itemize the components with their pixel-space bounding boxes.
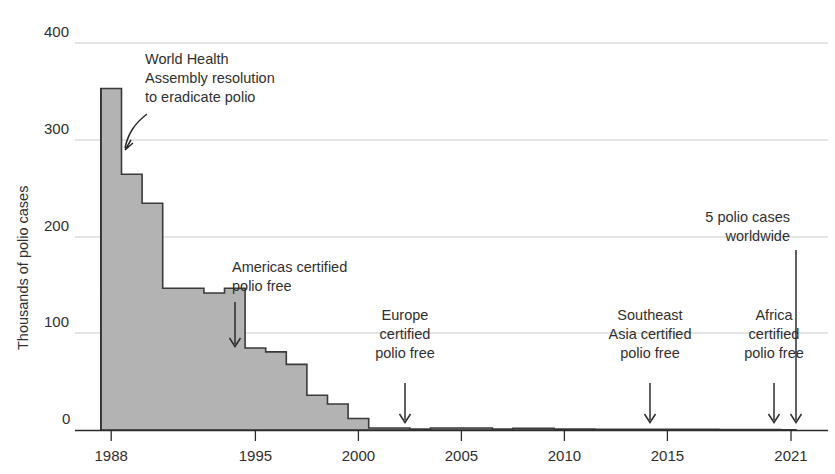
- annotation-five-cases: 5 polio cases worldwide: [672, 208, 790, 246]
- y-tick-label-300: 300: [44, 120, 69, 137]
- annotation-southeast-asia: Southeast Asia certified polio free: [583, 306, 717, 363]
- polio-cases-chart: 400 300 200 100 0 1988 1995 2000 2005 20…: [0, 0, 835, 474]
- annotation-europe: Europe certified polio free: [345, 306, 465, 363]
- annotation-africa: Africa certified polio free: [716, 306, 832, 363]
- y-tick-label-200: 200: [44, 217, 69, 234]
- x-tick-label-1995: 1995: [239, 447, 272, 464]
- y-tick-label-400: 400: [44, 23, 69, 40]
- y-axis-title: Thousands of polio cases: [15, 186, 31, 350]
- x-tick-label-2015: 2015: [651, 447, 684, 464]
- y-tick-label-0: 0: [62, 410, 70, 427]
- x-tick-label-2005: 2005: [445, 447, 478, 464]
- y-tick-label-100: 100: [44, 313, 69, 330]
- x-tick-label-2010: 2010: [548, 447, 581, 464]
- annotation-americas: Americas certified polio free: [232, 258, 407, 296]
- x-tick-label-2021: 2021: [774, 447, 807, 464]
- x-tick-label-1988: 1988: [95, 447, 128, 464]
- annotation-who-resolution: World Health Assembly resolution to erad…: [145, 50, 360, 107]
- x-tick-label-2000: 2000: [342, 447, 375, 464]
